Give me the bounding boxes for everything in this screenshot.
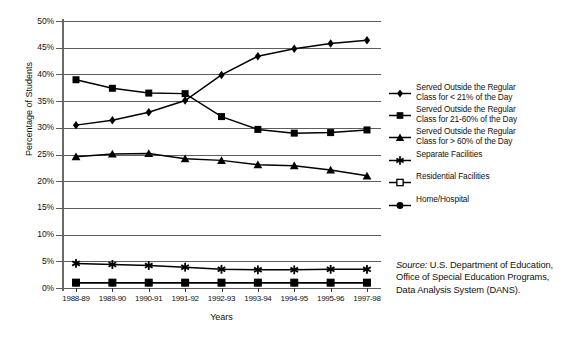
- plot-area: [62, 21, 381, 288]
- source-line-3: Data Analysis System (DANS).: [396, 285, 520, 295]
- gridline: [62, 155, 381, 156]
- y-axis-tick-label: 10%: [8, 230, 54, 239]
- x-axis-tick: [294, 288, 295, 292]
- legend-item-label: Home/Hospital: [416, 195, 574, 205]
- y-axis-tick-label: 5%: [8, 257, 54, 266]
- gridline: [62, 181, 381, 182]
- legend-item[interactable]: Home/Hospital: [388, 195, 574, 208]
- y-axis-tick-label: 20%: [8, 177, 54, 186]
- legend-item-label: Residential Facilities: [416, 172, 574, 182]
- gridline: [62, 235, 381, 236]
- data-point-diamond: [397, 90, 403, 98]
- y-axis-title: Percentage of Students: [24, 44, 34, 174]
- x-axis-tick: [112, 288, 113, 292]
- legend-item[interactable]: Served Outside the RegularClass for > 60…: [388, 127, 574, 146]
- y-axis-tick-label: 15%: [8, 203, 54, 212]
- data-point-open-square: [397, 179, 403, 185]
- x-axis-tick: [222, 288, 223, 292]
- source-line-2: Office of Special Education Programs,: [396, 272, 549, 282]
- data-point-circle: [397, 202, 404, 209]
- source-label: Source:: [396, 260, 427, 270]
- chart-legend: Served Outside the RegularClass for < 21…: [388, 83, 574, 211]
- legend-marker-star-icon: [388, 152, 412, 163]
- source-note: Source: U.S. Department of Education, Of…: [396, 259, 576, 296]
- legend-marker-triangle-icon: [388, 129, 412, 140]
- x-axis-tick: [149, 288, 150, 292]
- data-point-square: [397, 112, 404, 119]
- source-line-1: U.S. Department of Education,: [427, 260, 553, 270]
- x-axis-tick: [185, 288, 186, 292]
- x-axis-tick: [367, 288, 368, 292]
- x-axis-tick-label: 1997-98: [344, 294, 390, 303]
- legend-item[interactable]: Served Outside the RegularClass for < 21…: [388, 83, 574, 102]
- legend-item-label: Separate Facilities: [416, 150, 574, 160]
- legend-marker-diamond-icon: [388, 85, 412, 96]
- y-axis-tick-label: 50%: [8, 17, 54, 26]
- legend-item[interactable]: Separate Facilities: [388, 150, 574, 163]
- y-axis-tick-label: 0%: [8, 284, 54, 293]
- gridline: [62, 261, 381, 262]
- legend-item-label: Served Outside the RegularClass for > 60…: [416, 127, 574, 146]
- x-axis-title: Years: [62, 312, 381, 322]
- legend-item[interactable]: Served Outside the RegularClass for 21-6…: [388, 105, 574, 124]
- x-axis-tick: [258, 288, 259, 292]
- gridline: [62, 21, 381, 22]
- legend-item[interactable]: Residential Facilities: [388, 172, 574, 185]
- legend-item-label: Served Outside the RegularClass for < 21…: [416, 83, 574, 102]
- gridline: [62, 74, 381, 75]
- x-axis-tick: [331, 288, 332, 292]
- gridline: [62, 128, 381, 129]
- gridline: [62, 208, 381, 209]
- gridline: [62, 48, 381, 49]
- legend-marker-open-square-icon: [388, 174, 412, 185]
- x-axis-tick: [76, 288, 77, 292]
- chart-page: 0%5%10%15%20%25%30%35%40%45%50% Percenta…: [0, 0, 576, 337]
- legend-marker-circle-icon: [388, 197, 412, 208]
- gridline: [62, 101, 381, 102]
- legend-item-label: Served Outside the RegularClass for 21-6…: [416, 105, 574, 124]
- legend-marker-square-icon: [388, 107, 412, 118]
